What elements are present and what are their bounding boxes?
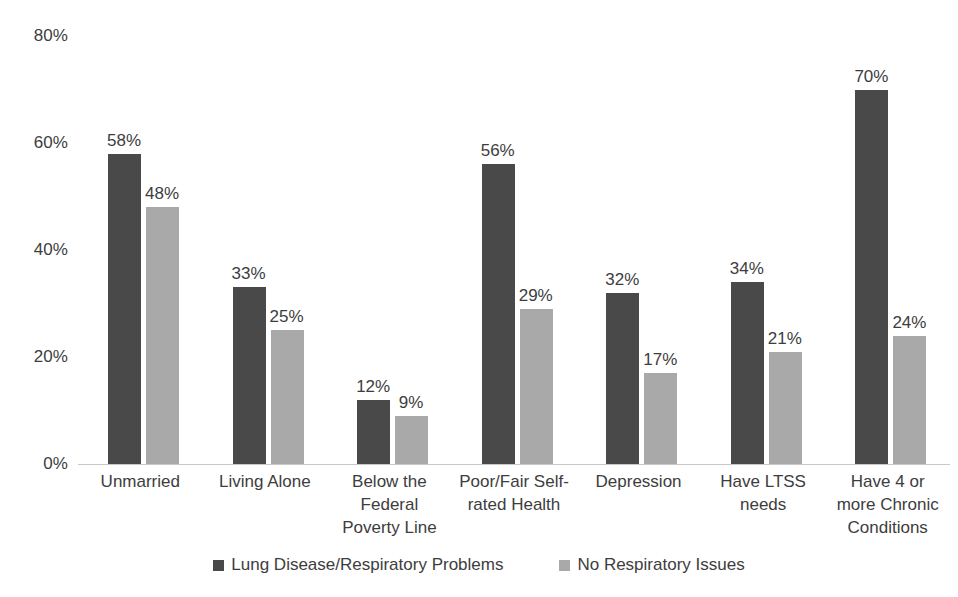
bar-secondary[interactable] (271, 330, 304, 464)
legend-swatch-icon (559, 560, 570, 571)
legend-item[interactable]: Lung Disease/Respiratory Problems (213, 556, 503, 574)
bar-group: 32%17% (576, 36, 701, 464)
bar-value-label: 34% (712, 260, 782, 278)
x-axis-category-labels: UnmarriedLiving AloneBelow theFederalPov… (78, 470, 950, 550)
bar-primary[interactable] (731, 282, 764, 464)
legend-item[interactable]: No Respiratory Issues (559, 556, 744, 574)
legend-swatch-icon (213, 560, 224, 571)
y-axis-tick-label: 20% (34, 348, 68, 365)
plot-area: 58%48%33%25%12%9%56%29%32%17%34%21%70%24… (78, 36, 950, 465)
bar-secondary[interactable] (395, 416, 428, 464)
bar-group: 56%29% (452, 36, 577, 464)
bar-secondary[interactable] (520, 309, 553, 464)
y-axis: 0%20%40%60%80% (0, 0, 78, 597)
chart-legend: Lung Disease/Respiratory ProblemsNo Resp… (0, 556, 958, 574)
x-axis-category-label-line: Have 4 or (813, 470, 958, 493)
bar-group: 70%24% (825, 36, 950, 464)
x-axis-category-label-line: Poverty Line (314, 516, 464, 539)
legend-label: No Respiratory Issues (577, 556, 744, 574)
bar-group: 33%25% (203, 36, 328, 464)
x-axis-category-label-line: more Chronic (813, 493, 958, 516)
x-axis-category-label-line: rated Health (439, 493, 589, 516)
bar-value-label: 25% (252, 308, 322, 326)
bar-primary[interactable] (855, 90, 888, 465)
bar-secondary[interactable] (644, 373, 677, 464)
bar-secondary[interactable] (893, 336, 926, 464)
y-axis-tick-label: 60% (34, 134, 68, 151)
bar-value-label: 33% (214, 265, 284, 283)
bar-group: 34%21% (701, 36, 826, 464)
bar-primary[interactable] (482, 164, 515, 464)
bar-value-label: 21% (750, 330, 820, 348)
bar-group: 12%9% (327, 36, 452, 464)
legend-label: Lung Disease/Respiratory Problems (231, 556, 503, 574)
y-axis-tick-label: 0% (43, 455, 68, 472)
bar-value-label: 17% (625, 351, 695, 369)
bar-value-label: 9% (376, 394, 446, 412)
x-axis-category-label: Have 4 ormore ChronicConditions (813, 470, 958, 539)
bar-value-label: 48% (127, 185, 197, 203)
bar-primary[interactable] (606, 293, 639, 464)
y-axis-tick-label: 80% (34, 27, 68, 44)
bar-secondary[interactable] (146, 207, 179, 464)
y-axis-tick-label: 40% (34, 241, 68, 258)
bar-value-label: 32% (587, 271, 657, 289)
bar-value-label: 29% (501, 287, 571, 305)
bar-value-label: 56% (463, 142, 533, 160)
bar-value-label: 58% (89, 132, 159, 150)
bar-value-label: 24% (874, 314, 944, 332)
bar-group: 58%48% (78, 36, 203, 464)
bar-chart: 0%20%40%60%80% 58%48%33%25%12%9%56%29%32… (0, 0, 958, 597)
bar-value-label: 70% (836, 68, 906, 86)
x-axis-category-label-line: Conditions (813, 516, 958, 539)
x-axis-baseline (78, 464, 950, 465)
bar-secondary[interactable] (769, 352, 802, 464)
